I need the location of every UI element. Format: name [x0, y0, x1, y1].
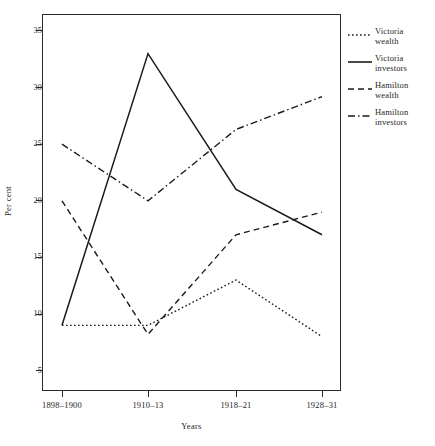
legend-line-swatch — [348, 27, 372, 39]
x-tick-label: 1918–21 — [196, 400, 276, 410]
y-tick-label: 30 — [20, 84, 42, 92]
legend-item: Victoria investors — [348, 53, 435, 73]
legend-line-swatch — [348, 54, 372, 66]
legend-item: Hamilton investors — [348, 107, 435, 127]
y-tick-label: 15 — [20, 253, 42, 261]
legend-line-swatch — [348, 81, 372, 93]
y-tick-label: 5 — [20, 367, 42, 375]
plot-area — [42, 14, 341, 391]
legend-label: Victoria wealth — [372, 26, 404, 46]
legend-label: Victoria investors — [372, 53, 407, 73]
x-axis-title: Years — [42, 421, 341, 431]
x-tick-label: 1898–1900 — [22, 400, 102, 410]
y-tick-label: 35 — [20, 27, 42, 35]
legend-item: Victoria wealth — [348, 26, 435, 46]
x-tick-mark — [62, 391, 63, 397]
y-tick-label: 25 — [20, 140, 42, 148]
x-axis: 1898–19001910–131918–211928–31 Years — [0, 391, 435, 446]
legend-line-swatch — [348, 108, 372, 120]
x-tick-label: 1910–13 — [108, 400, 188, 410]
x-tick-mark — [148, 391, 149, 397]
y-axis-title: Per cent — [3, 171, 13, 231]
legend-label: Hamilton wealth — [372, 80, 408, 100]
y-tick-label: 20 — [20, 197, 42, 205]
x-tick-label: 1928–31 — [282, 400, 362, 410]
y-tick-label: 10 — [20, 310, 42, 318]
y-axis: 5101520253035 — [10, 0, 42, 446]
legend-item: Hamilton wealth — [348, 80, 435, 100]
x-tick-mark — [236, 391, 237, 397]
x-tick-mark — [322, 391, 323, 397]
legend-label: Hamilton investors — [372, 107, 408, 127]
chart-figure: 5101520253035 Per cent 1898–19001910–131… — [0, 0, 435, 446]
legend: Victoria wealthVictoria investorsHamilto… — [348, 26, 435, 134]
